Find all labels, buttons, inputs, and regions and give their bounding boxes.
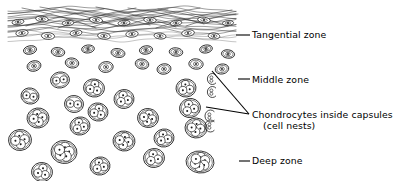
leader-target-cells <box>205 74 216 133</box>
chondrocyte-capsule <box>214 63 229 75</box>
flattened-chondrocyte <box>89 16 103 24</box>
chondrocyte-capsule <box>98 61 114 73</box>
chondrocyte-capsule <box>51 47 66 58</box>
cell-nest <box>50 139 79 165</box>
cell-nest <box>7 128 32 151</box>
cell-nest <box>153 128 176 149</box>
chondrocyte-capsule <box>81 44 95 53</box>
flattened-chondrocyte <box>222 20 234 26</box>
cell-nest <box>142 147 165 169</box>
leader-chondrocytes-upper <box>212 71 249 114</box>
cell-nest <box>20 86 41 105</box>
collagen-fiber <box>8 10 236 16</box>
leader-target-cell <box>207 87 216 98</box>
cell-nest <box>26 107 50 130</box>
cell-nest <box>175 78 197 98</box>
label-chondrocytes-capsules: Chondrocytes inside capsules <box>252 109 393 120</box>
cell-nest <box>136 107 160 129</box>
collagen-fiber <box>8 6 236 12</box>
middle-zone-single-cells <box>23 44 235 75</box>
flattened-chondrocyte <box>144 17 157 24</box>
chondrocyte-capsule <box>188 58 203 70</box>
chondrocyte-capsule <box>26 59 42 72</box>
cell-nest <box>30 161 54 181</box>
cell-nest <box>49 70 70 89</box>
cell-nest <box>113 88 135 110</box>
chondrocyte-capsule <box>199 44 213 54</box>
leader-target-cell <box>207 74 216 85</box>
chondrocyte-capsule <box>139 45 153 55</box>
label-cell-nests: (cell nests) <box>263 120 315 131</box>
cartilage-illustration <box>0 0 403 181</box>
chondrocyte-capsule <box>221 49 235 59</box>
cell-nest <box>89 155 112 176</box>
cartilage-figure: Tangential zone Middle zone Chondrocytes… <box>0 0 403 181</box>
cell-nest <box>64 95 85 114</box>
label-deep-zone: Deep zone <box>252 155 303 166</box>
chondrocyte-capsule <box>23 45 38 56</box>
crossing-fiber <box>156 10 232 28</box>
chondrocyte-capsule <box>110 47 125 58</box>
cell-nest <box>184 117 208 139</box>
chondrocyte-capsule <box>156 63 171 75</box>
chondrocyte-capsule <box>169 47 183 57</box>
chondrocyte-capsule <box>134 58 149 71</box>
cell-nest <box>178 97 202 120</box>
chondrocyte-capsule <box>65 57 80 69</box>
cell-nest <box>185 150 215 175</box>
cell-nest <box>82 78 105 99</box>
flattened-chondrocyte <box>208 33 220 40</box>
deep-zone-cell-nests <box>7 70 215 181</box>
label-tangential-zone: Tangential zone <box>252 29 326 40</box>
cell-nest <box>87 101 110 122</box>
flattened-chondrocyte <box>41 32 55 40</box>
cell-nest <box>68 115 91 136</box>
cell-nest <box>112 130 137 153</box>
flattened-chondrocyte <box>12 19 25 26</box>
label-middle-zone: Middle zone <box>252 74 309 85</box>
